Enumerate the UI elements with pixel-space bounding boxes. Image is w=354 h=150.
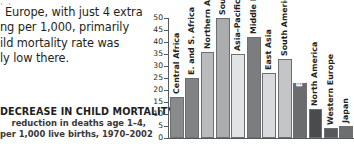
article-body-text: t t Europe, with just 4 extra ng per 1,0…	[0, 1, 146, 67]
y-axis-tick-25: 25	[146, 74, 163, 82]
bar-group[interactable]: Northern Africa	[201, 18, 215, 138]
y-axis-tick-20: 20	[146, 86, 163, 94]
x-axis-line	[168, 138, 354, 139]
bar-group[interactable]: Central Africa	[170, 18, 184, 138]
bar[interactable]	[262, 73, 276, 138]
y-axis-tick-15: 15	[146, 98, 163, 106]
article-line-3: ild mortality rate was	[0, 36, 146, 51]
bar-group[interactable]: East Asia	[262, 18, 276, 138]
y-axis-tick-labels: 50454035302520151050	[146, 18, 163, 138]
bar[interactable]	[278, 59, 292, 138]
bar[interactable]	[247, 37, 261, 138]
y-axis-tick-5: 5	[146, 122, 163, 130]
bar-chart: 50454035302520151050 Central AfricaE. an…	[146, 0, 354, 150]
bar-category-label: Central Africa	[173, 33, 181, 94]
bar[interactable]	[324, 128, 338, 138]
bar-category-label: Northern Africa	[204, 0, 212, 49]
bar[interactable]	[339, 126, 353, 138]
y-axis-tick-40: 40	[146, 38, 163, 46]
bar-group[interactable]: E. and S. Africa	[185, 18, 199, 138]
bar[interactable]	[309, 109, 323, 138]
bar-category-label: Middle East	[250, 0, 258, 34]
chart-caption: DECREASE IN CHILD MORTALITY reduction in…	[0, 106, 146, 139]
y-axis-tick-30: 30	[146, 62, 163, 70]
y-axis-tick-45: 45	[146, 26, 163, 34]
bar[interactable]	[185, 78, 199, 138]
bar[interactable]	[201, 52, 215, 138]
left-text-column: t t Europe, with just 4 extra ng per 1,0…	[0, 0, 146, 150]
plot-area: Central AfricaE. and S. AfricaNorthern A…	[169, 18, 354, 138]
bar-category-label: Eastern Europe	[296, 19, 304, 87]
infographic-page: t t Europe, with just 4 extra ng per 1,0…	[0, 0, 354, 150]
chart-title: DECREASE IN CHILD MORTALITY	[0, 106, 146, 118]
bar[interactable]	[170, 97, 184, 138]
bar-category-label: South America	[281, 0, 289, 56]
bar[interactable]	[216, 18, 230, 138]
bar-group[interactable]: North America	[309, 18, 323, 138]
bar-category-label: E. and S. Africa	[188, 7, 196, 75]
bar[interactable]	[293, 83, 307, 138]
y-axis-tick-35: 35	[146, 50, 163, 58]
bar-category-label: East Asia	[265, 29, 273, 70]
article-line-1: Europe, with just 4 extra	[0, 5, 146, 20]
article-line-4: ly low there.	[0, 51, 146, 66]
bar-category-label: Asia–Pacific	[234, 0, 242, 51]
bar-group[interactable]: South America	[278, 18, 292, 138]
bar-group[interactable]: Western Europe	[324, 18, 338, 138]
y-axis-tick-50: 50	[146, 14, 163, 22]
y-axis-tick-0: 0	[146, 134, 163, 142]
bar-group[interactable]: Eastern Europe	[293, 18, 307, 138]
y-axis-tick-10: 10	[146, 110, 163, 118]
chart-subtitle-line-1: reduction in deaths age 1–4,	[0, 118, 146, 129]
bar-category-label: North America	[311, 42, 319, 106]
bar[interactable]	[231, 54, 245, 138]
bar-category-label: South Asia	[219, 0, 227, 15]
bar-group[interactable]: Middle East	[247, 18, 261, 138]
article-line-2: ng per 1,000, primarily	[0, 20, 146, 35]
bar-group[interactable]: Japan	[339, 18, 353, 138]
chart-subtitle-line-2: per 1,000 live births, 1970–2002	[0, 129, 146, 140]
bar-group[interactable]: South Asia	[216, 18, 230, 138]
bar-group[interactable]: Asia–Pacific	[231, 18, 245, 138]
bar-category-label: Japan	[342, 98, 350, 123]
bar-category-label: Western Europe	[327, 54, 335, 125]
